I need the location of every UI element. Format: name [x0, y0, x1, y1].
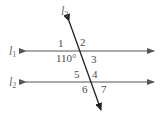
diagram-canvas: l1 l2 l3 1 2 110° 3 5 4 6 7: [0, 0, 165, 118]
angle-1-label: 1: [58, 37, 64, 49]
angle-7-label: 7: [101, 83, 107, 95]
label-l2: l2: [9, 75, 16, 90]
angle-3-label: 3: [91, 53, 97, 65]
line-l3-transversal: [69, 21, 101, 110]
angle-5-label: 5: [74, 68, 80, 80]
label-l3: l3: [61, 4, 68, 19]
angle-4-label: 4: [92, 68, 98, 80]
angle-given-110-label: 110°: [56, 52, 77, 64]
angle-6-label: 6: [82, 83, 88, 95]
angle-2-label: 2: [80, 36, 86, 48]
label-l1: l1: [9, 44, 16, 59]
